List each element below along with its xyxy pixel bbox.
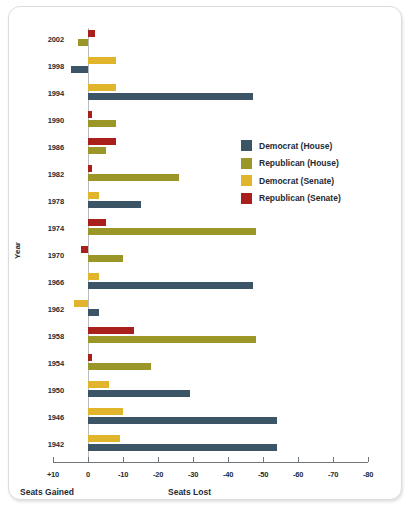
bar (88, 228, 256, 235)
bar (88, 138, 116, 145)
bar (88, 273, 99, 280)
legend-swatch-icon (241, 140, 252, 151)
bar (78, 39, 89, 46)
bar (88, 165, 92, 172)
x-axis-tick-label: -30 (180, 470, 206, 479)
year-tick-label: 1974 (30, 224, 64, 233)
legend-label: Democrat (House) (259, 141, 332, 151)
year-tick-label: 1994 (30, 89, 64, 98)
bar (88, 408, 123, 415)
bar (88, 219, 106, 226)
legend-item: Democrat (Senate) (241, 175, 341, 186)
chart-page: Year 20021998199419901986198219781974197… (0, 0, 414, 523)
year-tick-label: 1954 (30, 359, 64, 368)
x-axis-tick (53, 457, 54, 462)
bar (88, 417, 277, 424)
legend-label: Democrat (Senate) (259, 176, 334, 186)
x-axis-tick (193, 457, 194, 462)
year-tick-label: 1950 (30, 386, 64, 395)
x-axis-tick (123, 457, 124, 462)
bar (88, 111, 92, 118)
caption-seats-gained: Seats Gained (20, 487, 74, 497)
bar (88, 309, 99, 316)
legend-swatch-icon (241, 158, 252, 169)
bar (88, 282, 253, 289)
year-tick-label: 1958 (30, 332, 64, 341)
legend-swatch-icon (241, 175, 252, 186)
bar (88, 435, 120, 442)
year-tick-label: 1962 (30, 305, 64, 314)
bar (88, 327, 134, 334)
year-tick-label: 1986 (30, 143, 64, 152)
bar (88, 30, 95, 37)
year-tick-label: 1970 (30, 251, 64, 260)
legend-label: Republican (Senate) (259, 193, 341, 203)
x-axis-tick (158, 457, 159, 462)
chart-plot-area: Year 20021998199419901986198219781974197… (0, 0, 414, 523)
year-tick-label: 1978 (30, 197, 64, 206)
bar (88, 174, 179, 181)
bar (81, 246, 88, 253)
bar (88, 93, 253, 100)
legend-item: Republican (Senate) (241, 193, 341, 204)
x-axis-tick-label: -80 (355, 470, 381, 479)
bar (88, 120, 116, 127)
x-axis-tick-label: -60 (285, 470, 311, 479)
x-axis-tick (263, 457, 264, 462)
x-axis-tick-label: -50 (250, 470, 276, 479)
bar (88, 57, 116, 64)
legend-label: Republican (House) (259, 158, 339, 168)
legend-item: Democrat (House) (241, 140, 341, 151)
bar (88, 147, 106, 154)
legend-item: Republican (House) (241, 158, 341, 169)
year-tick-label: 1998 (30, 62, 64, 71)
bar (88, 390, 190, 397)
caption-seats-lost: Seats Lost (168, 487, 211, 497)
year-tick-label: 2002 (30, 35, 64, 44)
bar (88, 84, 116, 91)
x-axis-tick (228, 457, 229, 462)
bar (88, 444, 277, 451)
bar (74, 300, 88, 307)
legend-swatch-icon (241, 193, 252, 204)
bar (88, 363, 151, 370)
x-axis-tick-label: -10 (110, 470, 136, 479)
chart-legend: Democrat (House)Republican (House)Democr… (241, 140, 341, 210)
x-axis-tick-label: -20 (145, 470, 171, 479)
x-axis-tick (298, 457, 299, 462)
year-tick-label: 1990 (30, 116, 64, 125)
year-tick-label: 1946 (30, 413, 64, 422)
x-axis-tick-label: -70 (320, 470, 346, 479)
x-axis-tick-label: 0 (75, 470, 101, 479)
bar (71, 66, 89, 73)
year-tick-label: 1966 (30, 278, 64, 287)
bar (88, 336, 256, 343)
bar (88, 192, 99, 199)
x-axis-tick (368, 457, 369, 462)
y-axis-title: Year (13, 226, 22, 276)
year-tick-label: 1982 (30, 170, 64, 179)
year-tick-label: 1942 (30, 440, 64, 449)
x-axis-tick-label: -40 (215, 470, 241, 479)
bar (88, 201, 141, 208)
x-axis-tick (88, 457, 89, 462)
bar (88, 255, 123, 262)
bar (88, 354, 92, 361)
x-axis-line (53, 462, 368, 463)
x-axis-tick (333, 457, 334, 462)
x-axis-tick-label: +10 (40, 470, 66, 479)
bar (88, 381, 109, 388)
